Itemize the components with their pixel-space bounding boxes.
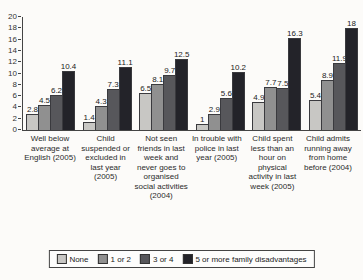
legend-item: None	[56, 254, 88, 264]
bar-value-label: 4.9	[253, 93, 264, 103]
y-tick-mark	[18, 50, 21, 51]
y-tick-label: 0	[13, 126, 17, 134]
y-tick-mark	[18, 118, 21, 119]
legend-swatch	[56, 254, 66, 264]
y-tick-mark	[18, 16, 21, 17]
bar-5-or-more-family-disadvantages: 11.1	[119, 67, 132, 130]
y-tick-label: 20	[8, 13, 17, 21]
legend-label: None	[69, 255, 88, 264]
legend-swatch	[140, 254, 150, 264]
y-tick-mark	[18, 27, 21, 28]
bar-group: 12.95.610.2	[196, 17, 245, 130]
bar-group: 5.48.911.918	[309, 17, 358, 130]
category-label: In trouble with police in last year (200…	[190, 134, 244, 201]
category-label: Child suspended or excluded in last year…	[79, 134, 133, 201]
bar-group: 4.97.77.516.3	[252, 17, 301, 130]
legend-label: 5 or more family disadvantages	[195, 255, 306, 264]
y-tick-mark	[18, 84, 21, 85]
y-tick-label: 6	[13, 92, 17, 100]
bar-value-label: 1.4	[84, 113, 95, 123]
y-axis: 02468101214161820	[0, 17, 21, 130]
y-tick-mark	[18, 39, 21, 40]
bar-value-label: 12.5	[174, 50, 190, 60]
legend-item: 5 or more family disadvantages	[182, 254, 306, 264]
bar-value-label: 7.3	[108, 80, 119, 90]
bar-value-label: 5.4	[310, 91, 321, 101]
bar-value-label: 11.1	[118, 58, 133, 68]
bar-value-label: 6.5	[140, 84, 151, 94]
legend-item: 1 or 2	[98, 254, 131, 264]
bar-5-or-more-family-disadvantages: 16.3	[288, 38, 301, 130]
bar-value-label: 10.2	[230, 63, 246, 73]
legend-swatch	[98, 254, 108, 264]
bar-value-label: 7.5	[277, 79, 288, 89]
bar-value-label: 10.4	[61, 62, 77, 72]
bar-value-label: 4.5	[39, 96, 50, 106]
y-tick-label: 12	[8, 58, 17, 66]
y-tick-label: 8	[13, 81, 17, 89]
y-tick-label: 14	[8, 47, 17, 55]
y-tick-label: 4	[13, 103, 17, 111]
bar-value-label: 9.7	[164, 66, 175, 76]
legend-swatch	[182, 254, 192, 264]
bar-value-label: 8.9	[322, 71, 333, 81]
y-tick-mark	[18, 61, 21, 62]
y-tick-label: 18	[8, 24, 17, 32]
bar-value-label: 18	[347, 19, 356, 29]
category-label: Child spent less than an hour on physica…	[245, 134, 299, 201]
y-tick-mark	[18, 95, 21, 96]
plot-area: 2.84.56.210.41.44.37.311.16.58.19.712.51…	[22, 17, 361, 131]
y-tick-label: 2	[13, 115, 17, 123]
bar-value-label: 4.3	[96, 97, 107, 107]
bar-5-or-more-family-disadvantages: 18	[345, 28, 358, 130]
legend-label: 3 or 4	[153, 255, 173, 264]
bar-value-label: 2.9	[209, 105, 220, 115]
legend-item: 3 or 4	[140, 254, 173, 264]
bar-5-or-more-family-disadvantages: 10.4	[62, 71, 75, 130]
bar-chart-figure: 02468101214161820 2.84.56.210.41.44.37.3…	[0, 0, 363, 280]
y-tick-mark	[18, 73, 21, 74]
bar-value-label: 8.1	[152, 75, 163, 85]
legend: None1 or 23 or 45 or more family disadva…	[48, 250, 314, 268]
y-tick-mark	[18, 106, 21, 107]
category-label: Not seen friends in last week and never …	[134, 134, 188, 201]
x-axis-labels: Well below average at English (2005)Chil…	[22, 134, 356, 201]
category-label: Well below average at English (2005)	[23, 134, 77, 201]
bar-group: 2.84.56.210.4	[26, 17, 75, 130]
bar-value-label: 7.7	[265, 78, 276, 88]
bar-value-label: 5.6	[221, 89, 232, 99]
bar-5-or-more-family-disadvantages: 12.5	[175, 59, 188, 130]
y-tick-label: 16	[8, 36, 17, 44]
bar-value-label: 1	[200, 115, 204, 125]
bar-group: 6.58.19.712.5	[139, 17, 188, 130]
category-label: Child admits running away from home befo…	[301, 134, 355, 201]
legend-label: 1 or 2	[111, 255, 131, 264]
bar-value-label: 16.3	[287, 29, 303, 39]
y-tick-label: 10	[8, 70, 17, 78]
y-tick-mark	[18, 129, 21, 130]
bar-5-or-more-family-disadvantages: 10.2	[232, 72, 245, 130]
bar-group: 1.44.37.311.1	[83, 17, 132, 130]
bar-value-label: 6.2	[51, 86, 62, 96]
bar-value-label: 2.8	[27, 105, 38, 115]
